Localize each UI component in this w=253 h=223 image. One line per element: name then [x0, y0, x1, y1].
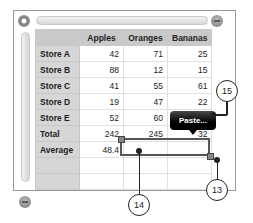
row-label[interactable]: Store B — [36, 62, 80, 78]
callout-14: 14 — [128, 194, 150, 216]
column-header-bananas[interactable]: Bananas — [168, 30, 212, 46]
cell[interactable] — [124, 174, 168, 190]
cell[interactable]: 42 — [80, 46, 124, 62]
cell[interactable] — [168, 158, 212, 174]
cell[interactable]: 55 — [124, 78, 168, 94]
cell[interactable]: 61 — [168, 78, 212, 94]
callout-13-leader — [217, 161, 219, 180]
cell[interactable]: 15 — [168, 62, 212, 78]
bottom-left-resize-icon[interactable] — [19, 196, 31, 208]
paste-label: Paste... — [179, 116, 207, 125]
cell[interactable]: 25 — [168, 46, 212, 62]
cell[interactable]: 88 — [80, 62, 124, 78]
row-label[interactable] — [36, 158, 80, 174]
corner-cell[interactable] — [36, 30, 80, 46]
cell[interactable]: 41 — [80, 78, 124, 94]
column-header-oranges[interactable]: Oranges — [124, 30, 168, 46]
cell[interactable]: 71 — [124, 46, 168, 62]
paste-button[interactable]: Paste... — [170, 111, 216, 130]
cell[interactable]: 22 — [168, 94, 212, 110]
table-row — [36, 174, 212, 190]
cell[interactable] — [80, 158, 124, 174]
row-label[interactable]: Store D — [36, 94, 80, 110]
table-row: Store D 19 47 22 — [36, 94, 212, 110]
row-label[interactable]: Store A — [36, 46, 80, 62]
callout-15-leader — [226, 101, 228, 115]
row-label[interactable]: Average — [36, 142, 80, 158]
cell[interactable] — [124, 158, 168, 174]
selection-start-handle[interactable] — [118, 136, 125, 143]
row-label[interactable]: Store C — [36, 78, 80, 94]
callout-13: 13 — [206, 179, 228, 201]
cell[interactable]: 19 — [80, 94, 124, 110]
cell[interactable]: 12 — [124, 62, 168, 78]
cell[interactable]: 242 — [80, 126, 124, 142]
cell[interactable]: 52 — [80, 110, 124, 126]
selection-end-handle[interactable] — [207, 153, 214, 160]
callout-15: 15 — [216, 80, 238, 102]
row-label[interactable]: Store E — [36, 110, 80, 126]
table-row: Store C 41 55 61 — [36, 78, 212, 94]
row-label[interactable] — [36, 174, 80, 190]
table-row — [36, 158, 212, 174]
cell-selection-range[interactable] — [120, 138, 210, 156]
callout-14-leader — [139, 152, 141, 195]
cell[interactable]: 60 — [124, 110, 168, 126]
cell[interactable] — [80, 174, 124, 190]
cell[interactable]: 47 — [124, 94, 168, 110]
top-left-handle-icon[interactable] — [18, 15, 30, 27]
top-right-resize-icon[interactable] — [211, 15, 223, 27]
table-row: Store A 42 71 25 — [36, 46, 212, 62]
horizontal-scrollbar[interactable] — [36, 16, 208, 25]
table-row: Store B 88 12 15 — [36, 62, 212, 78]
vertical-scrollbar[interactable] — [21, 32, 30, 182]
cell[interactable]: 48.4 — [80, 142, 124, 158]
header-row: Apples Oranges Bananas — [36, 30, 212, 46]
column-header-apples[interactable]: Apples — [80, 30, 124, 46]
row-label[interactable]: Total — [36, 126, 80, 142]
data-table: Apples Oranges Bananas Store A 42 71 25 … — [35, 29, 212, 190]
